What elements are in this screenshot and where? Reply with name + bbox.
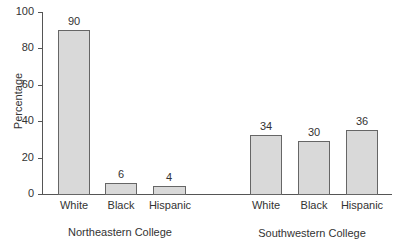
y-tick bbox=[38, 48, 43, 49]
y-tick-label: 0 bbox=[4, 187, 34, 199]
y-tick-label: 60 bbox=[4, 78, 34, 90]
y-tick bbox=[38, 85, 43, 86]
bar-sw-white bbox=[250, 135, 282, 195]
value-label: 90 bbox=[54, 15, 94, 27]
value-label: 36 bbox=[342, 115, 382, 127]
y-tick bbox=[38, 12, 43, 13]
y-tick bbox=[38, 194, 43, 195]
y-axis-line bbox=[42, 12, 43, 195]
bar-sw-hispanic bbox=[346, 130, 378, 195]
bar-sw-black bbox=[298, 141, 330, 195]
value-label: 30 bbox=[294, 126, 334, 138]
category-label: Hispanic bbox=[332, 199, 392, 211]
x-axis-line bbox=[42, 194, 392, 195]
y-tick-label: 100 bbox=[4, 5, 34, 17]
bar-ne-hispanic bbox=[153, 186, 186, 195]
category-label: Hispanic bbox=[140, 199, 200, 211]
group-label: Southwestern College bbox=[232, 227, 392, 239]
bar-ne-white bbox=[58, 30, 90, 195]
value-label: 34 bbox=[246, 120, 286, 132]
group-label: Northeastern College bbox=[40, 226, 200, 238]
y-tick-label: 40 bbox=[4, 114, 34, 126]
y-tick bbox=[38, 121, 43, 122]
y-tick-label: 20 bbox=[4, 151, 34, 163]
y-tick-label: 80 bbox=[4, 41, 34, 53]
value-label: 6 bbox=[101, 168, 141, 180]
y-tick bbox=[38, 158, 43, 159]
value-label: 4 bbox=[149, 171, 189, 183]
bar-ne-black bbox=[105, 183, 137, 195]
